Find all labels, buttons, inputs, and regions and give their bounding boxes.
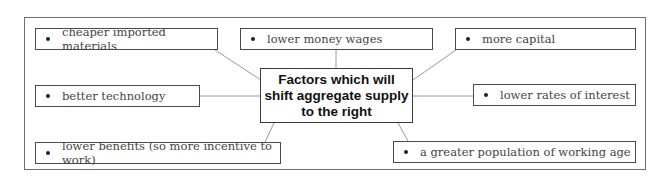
factor-box-lower-money-wages: lower money wages [240,28,433,50]
connector-cheaper-imported-materials [215,50,261,80]
factor-box-lower-rates-of-interest: lower rates of interest [473,84,636,106]
bullet-icon [46,151,50,155]
bullet-icon [404,150,408,154]
factor-label: more capital [482,32,555,46]
bullet-icon [484,93,488,97]
factor-label: better technology [62,89,165,103]
central-concept-box: Factors which will shift aggregate suppl… [260,68,413,123]
factor-label: lower benefits (so more incentive to wor… [62,139,280,167]
connector-greater-population [398,123,408,141]
factor-box-lower-benefits: lower benefits (so more incentive to wor… [35,142,281,164]
factor-box-better-technology: better technology [35,85,200,107]
factor-label: lower money wages [267,32,382,46]
factor-label: lower rates of interest [500,88,630,102]
bullet-icon [46,94,50,98]
connector-more-capital [413,50,456,80]
factor-label: cheaper imported materials [62,25,217,53]
factor-box-cheaper-imported-materials: cheaper imported materials [35,28,218,50]
central-title: Factors which will shift aggregate suppl… [264,72,408,120]
bullet-icon [46,37,50,41]
bullet-icon [251,37,255,41]
factor-label: a greater population of working age [420,145,631,159]
bullet-icon [466,37,470,41]
title-line-2: shift aggregate supply [264,88,408,104]
title-line-1: Factors which will [264,72,408,88]
factor-box-greater-population: a greater population of working age [393,141,636,163]
title-line-3: to the right [264,104,408,120]
factor-box-more-capital: more capital [455,28,636,50]
